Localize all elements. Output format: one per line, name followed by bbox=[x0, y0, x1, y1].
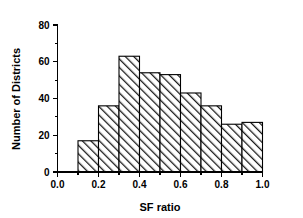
histogram-bar bbox=[99, 106, 120, 172]
y-tick-label: 80 bbox=[38, 20, 50, 31]
y-tick-label: 40 bbox=[38, 93, 50, 104]
histogram-bar bbox=[119, 56, 140, 172]
histogram-bar bbox=[201, 106, 222, 172]
histogram-bar bbox=[160, 75, 181, 172]
x-tick-label: 0.4 bbox=[133, 179, 147, 190]
x-tick-label: 0.8 bbox=[215, 179, 229, 190]
histogram-figure: 020406080 0.00.20.40.60.81.0 SF ratio Nu… bbox=[0, 0, 303, 218]
chart-canvas: 020406080 0.00.20.40.60.81.0 SF ratio Nu… bbox=[0, 0, 303, 218]
histogram-bar bbox=[181, 93, 202, 172]
x-tick-label: 0.2 bbox=[92, 179, 106, 190]
y-tick-label: 20 bbox=[38, 130, 50, 141]
histogram-bar bbox=[78, 141, 99, 172]
x-tick-label: 0.0 bbox=[51, 179, 65, 190]
y-tick-label: 60 bbox=[38, 56, 50, 67]
y-axis-title: Number of Districts bbox=[10, 48, 22, 150]
histogram-bar bbox=[242, 122, 263, 172]
histogram-bar bbox=[140, 73, 161, 172]
x-tick-label: 1.0 bbox=[256, 179, 270, 190]
y-tick-label: 0 bbox=[44, 167, 50, 178]
x-tick-label: 0.6 bbox=[174, 179, 188, 190]
histogram-bar bbox=[222, 124, 243, 172]
x-axis-title: SF ratio bbox=[140, 201, 181, 213]
